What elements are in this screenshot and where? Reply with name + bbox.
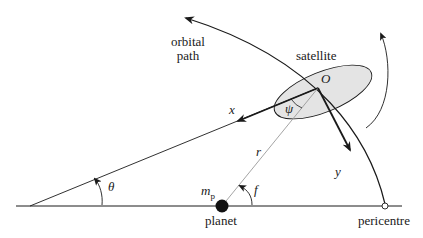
theta-label: θ: [108, 180, 114, 194]
radius-label: r: [256, 145, 261, 159]
satellite-label: satellite: [296, 49, 336, 63]
planet-label: planet: [205, 214, 237, 228]
f-label: f: [254, 183, 258, 197]
f-angle-arc: [240, 186, 252, 205]
pericentre-marker: [382, 203, 388, 209]
x-axis-label: x: [229, 103, 235, 117]
orbit-diagram: orbital path satellite O x ψ r y θ f mp …: [0, 0, 423, 238]
planet-mass-symbol: m: [201, 183, 210, 198]
theta-angle-arc: [95, 179, 102, 205]
orbital-path-label-line1: orbital: [162, 35, 214, 49]
pericentre-label: pericentre: [358, 214, 410, 228]
planet-dot: [216, 200, 229, 213]
psi-label: ψ: [285, 102, 293, 116]
y-axis-label: y: [335, 165, 341, 179]
origin-label: O: [321, 72, 330, 86]
planet-mass-subscript: p: [210, 191, 215, 201]
planet-mass-label: mp: [201, 184, 215, 203]
satellite-body: [267, 54, 378, 130]
orbital-path-label-line2: path: [162, 49, 214, 63]
orbital-path-label: orbital path: [162, 35, 214, 63]
radius-line: [222, 88, 318, 206]
